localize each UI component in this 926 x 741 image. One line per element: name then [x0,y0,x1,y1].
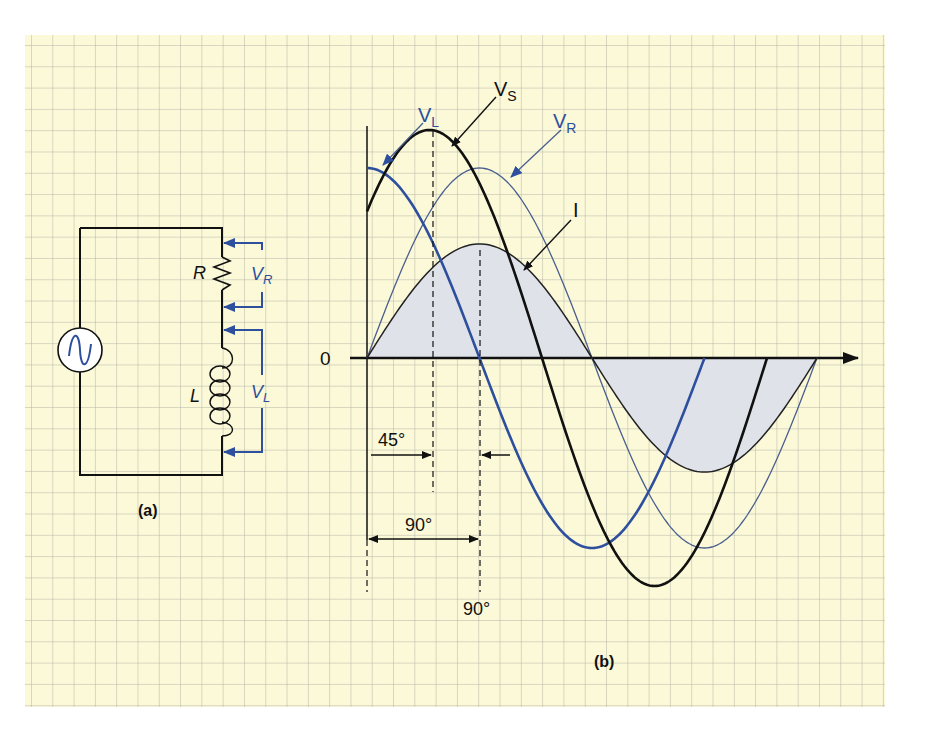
ac-source-icon [58,328,102,372]
resistor-symbol [214,257,230,290]
resistor-label: R [193,263,206,283]
angle-90-span-label: 90° [405,515,432,535]
waveform-diagram: VS VL VR I 0 45° 90° 90° (b) [320,78,858,670]
vr-pointer [511,130,561,177]
vr-label: VR [553,110,576,136]
angle-45-label: 45° [378,430,405,450]
inductor-label: L [190,386,200,406]
vr-label: VR [251,264,272,287]
caption-a: (a) [138,502,158,519]
circuit-diagram: R L VR VL (a) [58,228,272,519]
vl-label: VL [251,382,270,405]
zero-label: 0 [320,348,331,369]
caption-b: (b) [594,653,614,670]
vs-label: VS [494,78,517,104]
angle-90-mark-label: 90° [463,599,490,619]
diagram-canvas: R L VR VL (a) VS VL VR I 0 [0,0,926,741]
vl-pointer [383,123,423,165]
i-label: I [573,199,579,221]
i-pointer [524,220,571,270]
vs-pointer [452,97,496,146]
vl-label: VL [418,104,439,130]
inductor-symbol [210,348,233,436]
